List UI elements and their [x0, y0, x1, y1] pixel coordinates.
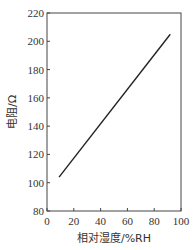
x-tick-label: 100 — [173, 215, 190, 227]
y-tick-label: 120 — [28, 148, 45, 160]
x-axis-label: 相对湿度/%RH — [77, 231, 151, 245]
y-tick-label: 180 — [28, 64, 45, 76]
y-tick-label: 140 — [28, 120, 45, 132]
x-tick-label: 0 — [44, 215, 50, 227]
y-tick-label: 160 — [28, 92, 45, 104]
x-tick-label: 40 — [95, 215, 107, 227]
y-tick-label: 100 — [28, 177, 45, 189]
y-tick-label: 200 — [28, 35, 45, 47]
plot-frame — [47, 13, 181, 211]
y-axis-label: 电阻/Ω — [6, 95, 19, 129]
y-tick-label: 80 — [33, 205, 45, 217]
y-tick-label: 220 — [28, 7, 45, 19]
x-tick-label: 20 — [68, 215, 80, 227]
x-tick-label: 60 — [122, 215, 134, 227]
chart: 80100120140160180200220020406080100相对湿度/… — [0, 0, 196, 250]
x-tick-label: 80 — [149, 215, 161, 227]
data-line — [59, 34, 170, 177]
